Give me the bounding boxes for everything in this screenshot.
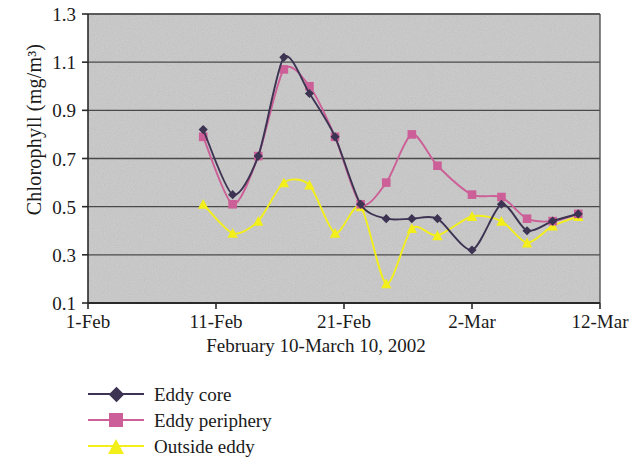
y-tick-label: 1.3 xyxy=(30,5,76,24)
x-tick-label: 1-Feb xyxy=(43,312,133,331)
y-tick-label: 0.7 xyxy=(30,150,76,169)
data-point xyxy=(468,190,477,199)
legend-item-outside-eddy: Outside eddy xyxy=(88,433,272,459)
data-point xyxy=(382,178,391,187)
chart-figure: Chlorophyll (mg/m³) 0.10.30.50.70.91.11.… xyxy=(0,0,632,464)
legend-item-eddy-core: Eddy core xyxy=(88,381,272,407)
y-tick-label: 0.9 xyxy=(30,101,76,120)
data-point xyxy=(433,161,442,170)
data-point xyxy=(523,214,532,223)
data-point xyxy=(228,200,237,209)
legend-label: Eddy core xyxy=(154,385,232,404)
x-tick-label: 11-Feb xyxy=(171,312,261,331)
y-axis-label: Chlorophyll (mg/m³) xyxy=(23,0,46,260)
legend-triangle-icon xyxy=(88,436,144,456)
x-tick-label: 12-Mar xyxy=(555,312,632,331)
chart-legend: Eddy coreEddy peripheryOutside eddy xyxy=(88,381,272,459)
x-tick-label: 21-Feb xyxy=(299,312,389,331)
y-tick-label: 0.5 xyxy=(30,198,76,217)
legend-label: Outside eddy xyxy=(154,437,255,456)
x-axis-label: February 10-March 10, 2002 xyxy=(66,335,566,357)
legend-label: Eddy periphery xyxy=(154,411,272,430)
x-tick-label: 2-Mar xyxy=(427,312,517,331)
legend-square-icon xyxy=(88,410,144,430)
legend-diamond-icon xyxy=(88,384,144,404)
legend-item-eddy-periphery: Eddy periphery xyxy=(88,407,272,433)
y-tick-label: 0.3 xyxy=(30,246,76,265)
data-point xyxy=(408,130,417,139)
y-tick-label: 1.1 xyxy=(30,53,76,72)
